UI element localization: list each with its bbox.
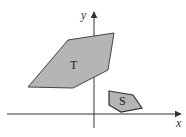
x-axis-label: x: [175, 116, 182, 130]
coordinate-diagram: x y T S: [0, 0, 186, 137]
y-axis-label: y: [80, 8, 87, 22]
shape-t-label: T: [70, 58, 78, 72]
shape-s-label: S: [119, 94, 126, 108]
